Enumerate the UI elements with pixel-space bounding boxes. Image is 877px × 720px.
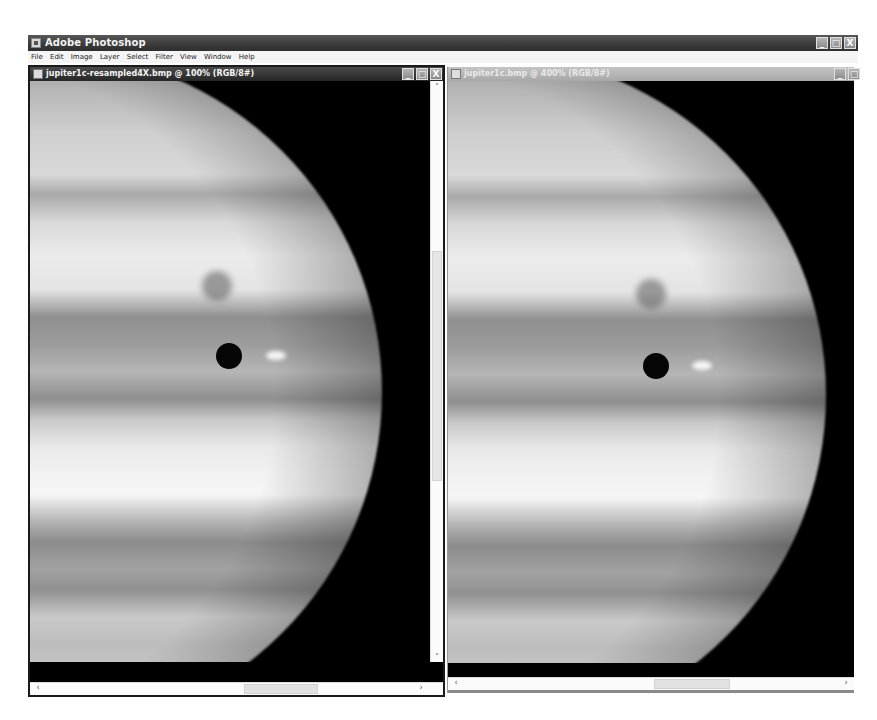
menu-select[interactable]: Select	[127, 51, 149, 63]
document-window-original: jupiter1c.bmp @ 400% (RGB/8#) _ □ ‹ ›	[447, 67, 854, 693]
app-close-button[interactable]: X	[844, 37, 856, 49]
document-title: jupiter1c-resampled4X.bmp @ 100% (RGB/8#…	[46, 67, 254, 81]
document-title: jupiter1c.bmp @ 400% (RGB/8#)	[464, 67, 610, 81]
image-canvas[interactable]	[30, 81, 430, 662]
window-bottom-border	[448, 690, 854, 693]
scroll-left-icon[interactable]: ‹	[32, 683, 44, 692]
vertical-scrollbar[interactable]: ˄ ˅	[430, 81, 443, 662]
menu-image[interactable]: Image	[71, 51, 93, 63]
vertical-scroll-thumb[interactable]	[432, 251, 442, 481]
app-minimize-button[interactable]: _	[816, 37, 828, 49]
menu-filter[interactable]: Filter	[156, 51, 173, 63]
horizontal-scroll-thumb[interactable]	[654, 679, 730, 689]
photoshop-app-window: Adobe Photoshop _ □ X File Edit Image La…	[28, 35, 858, 697]
moon-shadow	[643, 353, 669, 379]
scroll-down-icon[interactable]: ˅	[431, 653, 443, 662]
photoshop-app-icon	[31, 38, 41, 48]
scroll-up-icon[interactable]: ˄	[431, 83, 443, 92]
scroll-right-icon[interactable]: ›	[415, 683, 427, 692]
scroll-left-icon[interactable]: ‹	[450, 678, 462, 687]
document-icon	[33, 69, 43, 79]
document-window-resampled: jupiter1c-resampled4X.bmp @ 100% (RGB/8#…	[28, 65, 445, 697]
storm-spot	[636, 279, 666, 309]
document-titlebar[interactable]: jupiter1c-resampled4X.bmp @ 100% (RGB/8#…	[30, 67, 443, 81]
menu-view[interactable]: View	[180, 51, 197, 63]
menu-file[interactable]: File	[31, 51, 43, 63]
jupiter-image	[448, 81, 826, 663]
jupiter-image	[30, 81, 382, 662]
document-titlebar[interactable]: jupiter1c.bmp @ 400% (RGB/8#) _ □	[448, 67, 854, 81]
app-titlebar[interactable]: Adobe Photoshop _ □ X	[28, 35, 858, 51]
scroll-right-icon[interactable]: ›	[840, 678, 852, 687]
menu-edit[interactable]: Edit	[50, 51, 64, 63]
document-close-button[interactable]: X	[430, 68, 442, 80]
app-maximize-button[interactable]: □	[830, 37, 842, 49]
menu-bar: File Edit Image Layer Select Filter View…	[28, 51, 858, 63]
document-maximize-button[interactable]: □	[848, 68, 860, 80]
document-minimize-button[interactable]: _	[834, 68, 846, 80]
storm-spot	[202, 271, 232, 301]
white-oval	[266, 351, 286, 360]
horizontal-scrollbar[interactable]: ‹ ›	[448, 677, 854, 690]
horizontal-scroll-thumb[interactable]	[244, 684, 318, 694]
horizontal-scrollbar[interactable]: ‹ ›	[30, 682, 443, 695]
document-maximize-button[interactable]: □	[416, 68, 428, 80]
menu-window[interactable]: Window	[204, 51, 232, 63]
document-minimize-button[interactable]: _	[402, 68, 414, 80]
image-canvas[interactable]	[448, 81, 854, 663]
moon-shadow	[216, 343, 242, 369]
app-title: Adobe Photoshop	[45, 35, 146, 51]
menu-help[interactable]: Help	[239, 51, 255, 63]
menu-layer[interactable]: Layer	[100, 51, 120, 63]
document-icon	[451, 69, 461, 79]
white-oval	[692, 361, 712, 370]
